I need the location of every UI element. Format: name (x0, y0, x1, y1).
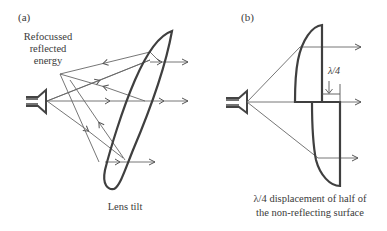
annotation-line: energy (10, 55, 86, 67)
panel-a-caption: Lens tilt (90, 200, 160, 214)
reflected-rays (60, 52, 160, 162)
caption-line: the non-reflecting surface (235, 206, 385, 220)
annotation-line: reflected (10, 43, 86, 55)
annotation-line: Refocussed (10, 31, 86, 43)
sound-source-icon (26, 90, 46, 113)
dimension-label: λ/4 (328, 65, 340, 76)
panel-b-label: (b) (241, 11, 254, 23)
refocussed-energy-annotation: Refocussed reflected energy (10, 31, 86, 67)
panel-a-label: (a) (18, 11, 30, 23)
panel-b-diagram (226, 25, 361, 186)
lower-lens-half-displaced (312, 102, 340, 186)
transmitted-rays (105, 62, 188, 162)
upper-lens-half (295, 25, 322, 102)
sound-source-icon (226, 91, 247, 113)
panel-b-caption: λ/4 displacement of half of the non-refl… (235, 192, 385, 220)
quarter-wavelength-dimension (322, 81, 340, 102)
caption-line: λ/4 displacement of half of (235, 192, 385, 206)
